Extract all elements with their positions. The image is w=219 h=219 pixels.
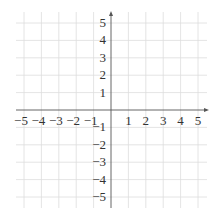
x-tick-label: 5 <box>195 113 202 128</box>
y-tick-label: 2 <box>100 67 107 82</box>
y-tick-label: 3 <box>100 50 107 65</box>
x-axis-arrow-icon <box>204 108 209 112</box>
y-tick-label: −3 <box>92 154 106 169</box>
x-tick-label: 1 <box>125 113 132 128</box>
x-tick-label: 3 <box>160 113 167 128</box>
x-tick-label: 4 <box>177 113 184 128</box>
coordinate-plane: −5−4−3−2−112345 54321−1−2−3−4−5 <box>0 0 219 219</box>
x-tick-labels: −5−4−3−2−112345 <box>14 113 201 128</box>
y-tick-label: −2 <box>92 137 106 152</box>
y-tick-label: −5 <box>92 189 106 204</box>
y-tick-label: 1 <box>100 85 107 100</box>
y-tick-label: 5 <box>100 15 107 30</box>
y-axis-arrow-icon <box>109 11 113 16</box>
y-tick-labels: 54321−1−2−3−4−5 <box>92 15 106 204</box>
x-tick-label: −3 <box>49 113 63 128</box>
x-tick-label: −4 <box>31 113 45 128</box>
x-tick-label: −2 <box>66 113 80 128</box>
y-tick-label: 4 <box>100 32 107 47</box>
y-tick-label: −1 <box>92 119 106 134</box>
x-tick-label: 2 <box>143 113 150 128</box>
y-tick-label: −4 <box>92 172 106 187</box>
x-tick-label: −5 <box>14 113 28 128</box>
